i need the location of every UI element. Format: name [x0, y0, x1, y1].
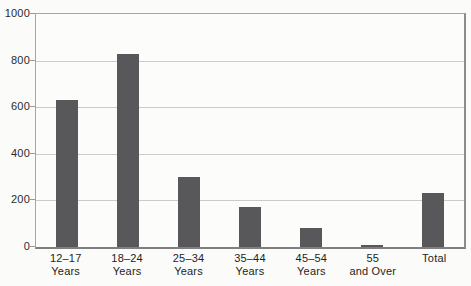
x-tick-label: Total [404, 252, 465, 278]
x-tick-label: 12–17 Years [35, 252, 96, 278]
y-tick-mark [30, 13, 35, 14]
y-tick-label: 0 [0, 240, 30, 252]
y-tick-label: 400 [0, 147, 30, 159]
y-tick-mark [30, 246, 35, 247]
y-tick-label: 200 [0, 193, 30, 205]
x-tick-label: 35–44 Years [219, 252, 280, 278]
x-axis-labels: 12–17 Years18–24 Years25–34 Years35–44 Y… [35, 252, 465, 278]
gridline [36, 154, 464, 155]
y-tick-mark [30, 106, 35, 107]
bar [117, 54, 139, 247]
bar [300, 228, 322, 247]
y-tick-mark [30, 153, 35, 154]
gridline [36, 61, 464, 62]
plot-area [35, 13, 466, 249]
gridline [36, 107, 464, 108]
y-tick-label: 1000 [0, 7, 30, 19]
gridline [36, 200, 464, 201]
bar [56, 100, 78, 247]
y-tick-mark [30, 199, 35, 200]
x-tick-label: 45–54 Years [281, 252, 342, 278]
bar [422, 193, 444, 247]
y-tick-label: 600 [0, 100, 30, 112]
y-tick-mark [30, 60, 35, 61]
age-bar-chart: 12–17 Years18–24 Years25–34 Years35–44 Y… [0, 0, 471, 286]
bar [239, 207, 261, 247]
bar [178, 177, 200, 247]
x-tick-label: 18–24 Years [96, 252, 157, 278]
x-tick-label: 55 and Over [342, 252, 403, 278]
x-tick-label: 25–34 Years [158, 252, 219, 278]
y-tick-label: 800 [0, 54, 30, 66]
bar [361, 245, 383, 247]
